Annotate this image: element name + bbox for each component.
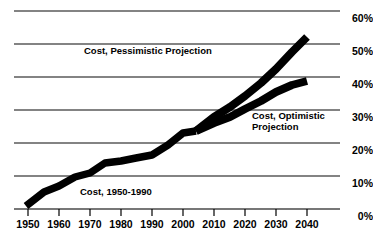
y-tick-60: 60%	[340, 13, 373, 24]
gridlines	[14, 11, 340, 176]
y-tick-50: 50%	[340, 46, 373, 57]
annotation-pessimistic: Cost, Pessimistic Projection	[84, 45, 212, 56]
y-tick-30: 30%	[340, 112, 373, 123]
y-tick-0: 0%	[340, 211, 373, 222]
y-tick-10: 10%	[340, 178, 373, 189]
y-tick-20: 20%	[340, 145, 373, 156]
chart-container: Cost as a Percentage of Payroll, Project…	[0, 0, 373, 242]
x-axis-labels: 1950 1960 1970 1980 1990 2000 2010 2020 …	[0, 218, 340, 234]
x-tick-2040: 2040	[287, 218, 327, 230]
annotation-optimistic: Cost, Optimistic Projection	[252, 110, 325, 132]
y-tick-40: 40%	[340, 79, 373, 90]
x-axis	[14, 209, 340, 216]
annotation-historical: Cost, 1950-1990	[80, 186, 152, 197]
y-axis-labels: 60% 50% 40% 30% 20% 10% 0%	[340, 0, 373, 242]
